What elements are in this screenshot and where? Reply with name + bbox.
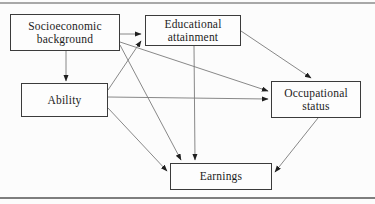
node-occupational-status: Occupational status [271,81,361,118]
node-label-line: Educational [164,18,221,31]
edge-ability-to-occupational-status [108,97,268,99]
top-rule [0,2,375,4]
edge-educational-attainment-to-earnings [194,46,195,160]
path-model-figure: Socioeconomic background Educational att… [0,0,375,204]
node-socioeconomic-background: Socioeconomic background [10,14,120,51]
node-label-line: status [302,100,329,113]
node-label-line: Socioeconomic [28,20,102,33]
node-label-line: Ability [48,94,82,107]
bottom-rule [0,197,375,199]
edge-socioeconomic-background-to-earnings [120,45,181,160]
node-label-line: Occupational [284,87,348,100]
node-earnings: Earnings [170,163,272,190]
node-label-line: background [37,33,93,46]
node-label-line: attainment [168,31,219,44]
edge-educational-attainment-to-occupational-status [241,31,311,78]
edge-ability-to-earnings [108,108,167,171]
node-label-line: Earnings [200,170,242,183]
edge-socioeconomic-background-to-occupational-status [120,42,268,91]
edge-occupational-status-to-earnings [275,118,318,172]
node-educational-attainment: Educational attainment [145,15,241,46]
node-ability: Ability [21,83,108,117]
